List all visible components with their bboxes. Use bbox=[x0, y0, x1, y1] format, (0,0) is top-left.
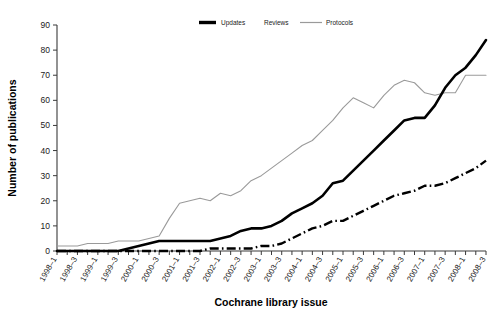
x-tick-label: 2001–1 bbox=[160, 255, 181, 283]
x-axis-title: Cochrane library issue bbox=[214, 296, 327, 308]
x-tick-label: 2002–1 bbox=[201, 255, 222, 283]
x-tick-label: 2003–3 bbox=[262, 255, 283, 283]
x-tick-label: 2005–3 bbox=[344, 255, 365, 283]
y-tick-label: 30 bbox=[41, 171, 51, 181]
x-tick-label: 1999–3 bbox=[99, 255, 120, 283]
x-tick-label: 1998–1 bbox=[38, 255, 59, 283]
x-tick-label: 2002–3 bbox=[221, 255, 242, 283]
x-tick-label: 2004–1 bbox=[283, 255, 304, 283]
y-tick-label: 0 bbox=[45, 246, 50, 256]
x-tick-label: 2006–1 bbox=[364, 255, 385, 283]
chart-series-group bbox=[57, 40, 486, 251]
legend-label-updates: Updates bbox=[221, 19, 246, 27]
x-tick-label: 2007–1 bbox=[405, 255, 426, 283]
x-tick-label: 1998–3 bbox=[58, 255, 79, 283]
y-tick-label: 40 bbox=[41, 146, 51, 156]
x-tick-label: 2003–1 bbox=[242, 255, 263, 283]
x-tick-label: 2000–1 bbox=[119, 255, 140, 283]
x-tick-label: 1999–1 bbox=[78, 255, 99, 283]
x-tick-label: 2008–3 bbox=[467, 255, 488, 283]
x-tick-label: 2006–3 bbox=[385, 255, 406, 283]
chart-figure: Updates Reviews Protocols 01020304050607… bbox=[0, 0, 500, 321]
x-tick-label: 2001–3 bbox=[181, 255, 202, 283]
x-tick-label: 2004–3 bbox=[303, 255, 324, 283]
y-tick-label: 80 bbox=[41, 45, 51, 55]
series-line-updates bbox=[57, 40, 486, 251]
x-tick-label: 2000–3 bbox=[140, 255, 161, 283]
chart-axes bbox=[57, 25, 486, 251]
y-tick-label: 60 bbox=[41, 95, 51, 105]
x-tick-label: 2007–3 bbox=[426, 255, 447, 283]
legend-label-reviews: Reviews bbox=[264, 19, 289, 26]
line-chart: Updates Reviews Protocols 01020304050607… bbox=[0, 0, 500, 321]
series-line-reviews bbox=[57, 75, 486, 246]
y-tick-label: 90 bbox=[41, 20, 51, 30]
y-tick-label: 20 bbox=[41, 196, 51, 206]
x-tick-label: 2008–1 bbox=[446, 255, 467, 283]
y-axis-ticks: 0102030405060708090 bbox=[41, 20, 57, 256]
legend-label-protocols: Protocols bbox=[326, 19, 354, 26]
y-tick-label: 10 bbox=[41, 221, 51, 231]
y-tick-label: 50 bbox=[41, 120, 51, 130]
chart-legend: Updates Reviews Protocols bbox=[199, 19, 354, 27]
series-line-protocols bbox=[57, 161, 486, 251]
y-axis-title: Number of publications bbox=[6, 79, 18, 196]
x-axis-tick-labels: 1998–11998–31999–11999–32000–12000–32001… bbox=[38, 255, 488, 283]
y-tick-label: 70 bbox=[41, 70, 51, 80]
x-tick-label: 2005–1 bbox=[324, 255, 345, 283]
